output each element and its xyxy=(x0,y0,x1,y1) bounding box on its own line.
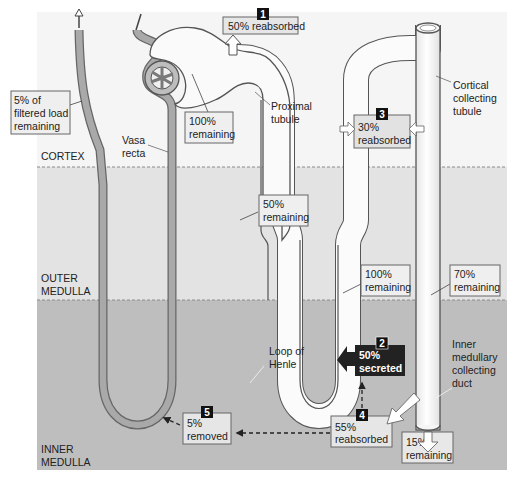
step-5-line2: removed xyxy=(187,430,228,442)
step-4-line1: 55% xyxy=(335,421,356,433)
step-1-badge: 1 xyxy=(260,9,266,20)
loop-100-line1: 100% xyxy=(365,268,392,280)
proximal-tubule-line2: tubule xyxy=(271,113,300,125)
outer-medulla-label-line2: MEDULLA xyxy=(41,285,91,297)
final-remaining: 15% remaining xyxy=(402,432,453,463)
outer-medulla-label-line1: OUTER xyxy=(41,272,78,284)
collecting-duct xyxy=(416,23,440,430)
filtered-load-line3: remaining xyxy=(14,120,60,132)
proximal-tubule-line1: Proximal xyxy=(271,100,312,112)
filtered-load-line1: 5% of xyxy=(14,94,41,106)
glomerulus-100-line1: 100% xyxy=(189,115,216,127)
step-5-badge: 5 xyxy=(204,407,210,418)
filtered-load-line2: filtered load xyxy=(14,107,68,119)
nephron-urea-handling-diagram: CORTEX OUTER MEDULLA INNER MEDULLA xyxy=(0,0,518,480)
inner-medullary-line4: duct xyxy=(452,377,472,389)
step-1-text: 50% reabsorbed xyxy=(228,20,305,32)
vasa-recta-line2: recta xyxy=(122,147,146,159)
step-2-badge: 2 xyxy=(379,338,385,349)
inner-medulla-label-line1: INNER xyxy=(41,443,74,455)
step-2-line2: secreted xyxy=(359,362,402,374)
cortical-collecting-line3: tubule xyxy=(453,105,482,117)
inner-medullary-line1: Inner xyxy=(452,338,476,350)
collecting-70-line2: remaining xyxy=(454,281,500,293)
step-3-line1: 30% xyxy=(358,121,379,133)
loop-100-line2: remaining xyxy=(365,281,411,293)
cortical-collecting-line2: collecting xyxy=(453,92,497,104)
inner-medullary-line2: medullary xyxy=(452,351,498,363)
step-3-badge: 3 xyxy=(379,109,385,120)
step-3-line2: reabsorbed xyxy=(358,134,411,146)
inner-medulla-label-line2: MEDULLA xyxy=(41,456,91,468)
inner-medullary-line3: collecting xyxy=(452,364,496,376)
collecting-70-line1: 70% xyxy=(454,268,475,280)
cortex-label: CORTEX xyxy=(41,150,85,162)
step-2-line1: 50% xyxy=(359,349,381,361)
loop-of-henle-line2: Henle xyxy=(269,358,297,370)
loop-of-henle-line1: Loop of xyxy=(269,345,304,357)
step-5-line1: 5% xyxy=(187,417,202,429)
glomerulus-100-line2: remaining xyxy=(189,128,235,140)
proximal-50-line1: 50% xyxy=(263,198,284,210)
proximal-50-line2: remaining xyxy=(263,211,309,223)
vasa-recta-line1: Vasa xyxy=(122,134,145,146)
cortical-collecting-line1: Cortical xyxy=(453,79,489,91)
step-4-line2: reabsorbed xyxy=(335,433,388,445)
step-4-badge: 4 xyxy=(359,410,365,421)
